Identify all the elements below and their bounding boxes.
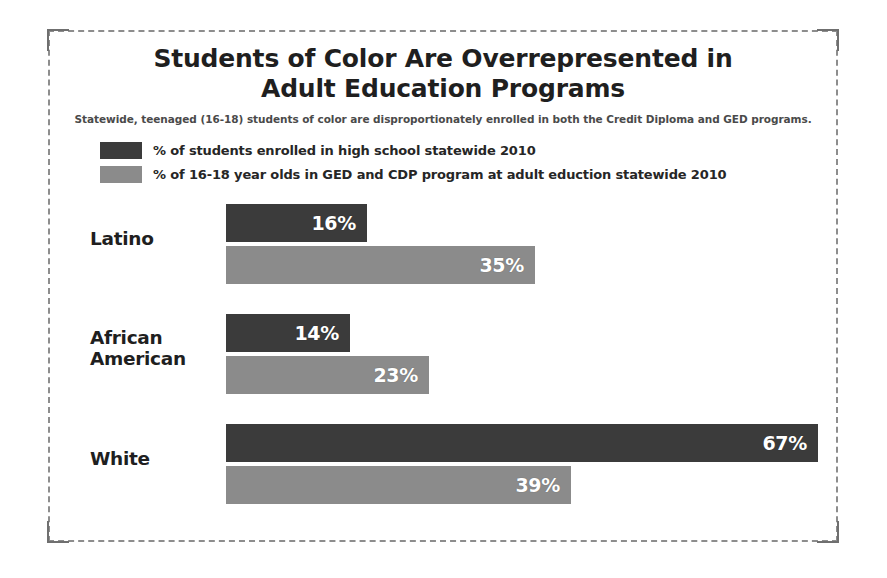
category-label-latino: Latino <box>90 228 220 249</box>
bar-group-white: White 67% 39% <box>48 416 838 524</box>
category-label-line-2: American <box>90 348 220 369</box>
bar-value-latino-adult-education: 35% <box>479 254 535 276</box>
bar-white-adult-education: 39% <box>226 466 571 504</box>
bar-value-white-adult-education: 39% <box>515 474 571 496</box>
bar-latino-high-school: 16% <box>226 204 367 242</box>
legend-label-adult-education: % of 16-18 year olds in GED and CDP prog… <box>153 167 726 182</box>
bar-group-latino: Latino 16% 35% <box>48 196 838 304</box>
bar-value-african-american-adult-education: 23% <box>373 364 429 386</box>
bar-african-american-adult-education: 23% <box>226 356 429 394</box>
category-label-line-1: Latino <box>90 228 220 249</box>
chart-plot-area: Latino 16% 35% African American 14% 23% <box>48 196 838 526</box>
frame-border-bottom <box>48 540 838 542</box>
category-label-african-american: African American <box>90 327 220 369</box>
frame-border-top <box>48 30 838 32</box>
bar-group-african-american: African American 14% 23% <box>48 306 838 414</box>
legend-item-high-school: % of students enrolled in high school st… <box>100 138 726 162</box>
legend-item-adult-education: % of 16-18 year olds in GED and CDP prog… <box>100 162 726 186</box>
chart-subtitle: Statewide, teenaged (16-18) students of … <box>48 113 838 125</box>
legend-swatch-adulted <box>100 166 142 183</box>
bar-value-african-american-high-school: 14% <box>294 322 350 344</box>
chart-legend: % of students enrolled in high school st… <box>100 138 726 186</box>
bar-value-latino-high-school: 16% <box>311 212 367 234</box>
legend-swatch-highschool <box>100 142 142 159</box>
category-label-line-1: African <box>90 327 220 348</box>
chart-header: Students of Color Are Overrepresented in… <box>48 44 838 125</box>
bar-value-white-high-school: 67% <box>762 432 818 454</box>
legend-label-high-school: % of students enrolled in high school st… <box>153 143 536 158</box>
chart-title-line-2: Adult Education Programs <box>48 74 838 104</box>
bar-african-american-high-school: 14% <box>226 314 350 352</box>
chart-frame: Students of Color Are Overrepresented in… <box>48 30 838 542</box>
category-label-white: White <box>90 448 220 469</box>
category-label-line-1: White <box>90 448 220 469</box>
bar-white-high-school: 67% <box>226 424 818 462</box>
bar-latino-adult-education: 35% <box>226 246 535 284</box>
chart-title-line-1: Students of Color Are Overrepresented in <box>48 44 838 74</box>
